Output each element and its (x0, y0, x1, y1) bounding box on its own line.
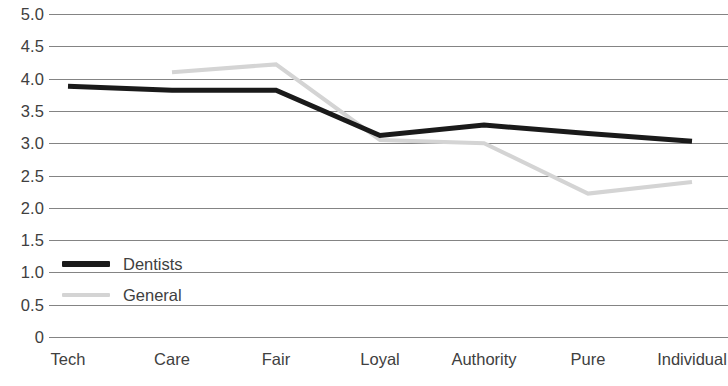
x-tick-label: Individual (657, 351, 727, 368)
legend-label: General (123, 287, 182, 304)
x-tick-label: Care (154, 351, 190, 368)
legend-swatch-general (62, 293, 110, 297)
chart-legend: DentistsGeneral (62, 254, 272, 316)
x-tick-label: Pure (571, 351, 606, 368)
legend-item-dentists[interactable]: Dentists (62, 254, 183, 274)
x-tick-label: Tech (51, 351, 86, 368)
series-line-dentists (68, 86, 692, 141)
series-layer (0, 0, 728, 386)
x-tick-label: Fair (262, 351, 290, 368)
line-chart: 00.51.01.52.02.53.03.54.04.55.0 Dentists… (0, 0, 728, 386)
x-tick-label: Authority (451, 351, 516, 368)
legend-swatch-dentists (62, 261, 110, 267)
x-tick-label: Loyal (360, 351, 399, 368)
legend-item-general[interactable]: General (62, 285, 182, 305)
series-dentists-group (68, 86, 692, 141)
legend-label: Dentists (123, 256, 183, 273)
x-axis: TechCareFairLoyalAuthorityPureIndividual (0, 342, 728, 386)
